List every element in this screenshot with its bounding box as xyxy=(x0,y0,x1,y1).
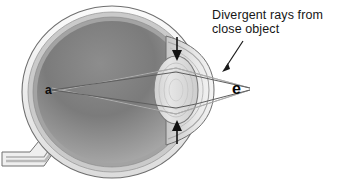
point-label-a: a xyxy=(45,84,52,96)
caption-line-2: close object xyxy=(212,22,352,36)
caption-line-1: Divergent rays from xyxy=(212,8,352,22)
point-label-e: e xyxy=(232,81,241,97)
eye-accommodation-diagram: Divergent rays from close object a e xyxy=(0,0,355,183)
caption-leader-line xyxy=(222,41,243,72)
caption-divergent-rays: Divergent rays from close object xyxy=(212,8,352,36)
